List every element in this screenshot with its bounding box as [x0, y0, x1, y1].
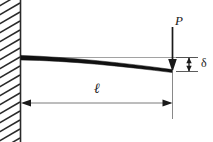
span-arrow-head-left — [21, 100, 31, 107]
span-length-label: ℓ — [94, 82, 100, 96]
span-arrow-head-right — [163, 100, 173, 107]
cantilever-beam-figure: P ℓ δ — [0, 0, 213, 142]
delta-arrow-head-down — [186, 66, 191, 72]
beam-curve — [21, 55, 173, 72]
deflection-label-delta: δ — [201, 57, 207, 69]
deflection-dimension — [176, 58, 198, 72]
delta-arrow-head-up — [186, 58, 191, 64]
load-label-P: P — [175, 14, 183, 27]
wall-hatching — [0, 0, 20, 142]
span-dimension — [21, 100, 173, 107]
fixed-support-wall — [0, 0, 21, 142]
load-arrow-P — [168, 27, 177, 72]
